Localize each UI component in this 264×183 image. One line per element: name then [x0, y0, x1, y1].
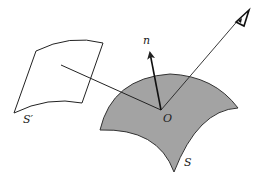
- projected-surface-s-prime: [14, 40, 103, 113]
- normal-label: n: [143, 34, 150, 47]
- origin-label: O: [163, 112, 172, 125]
- surface-projection-diagram: n O S S′: [0, 0, 264, 183]
- surface-label: S: [184, 156, 192, 169]
- projected-surface-label: S′: [23, 113, 34, 126]
- eye-icon: [236, 10, 249, 26]
